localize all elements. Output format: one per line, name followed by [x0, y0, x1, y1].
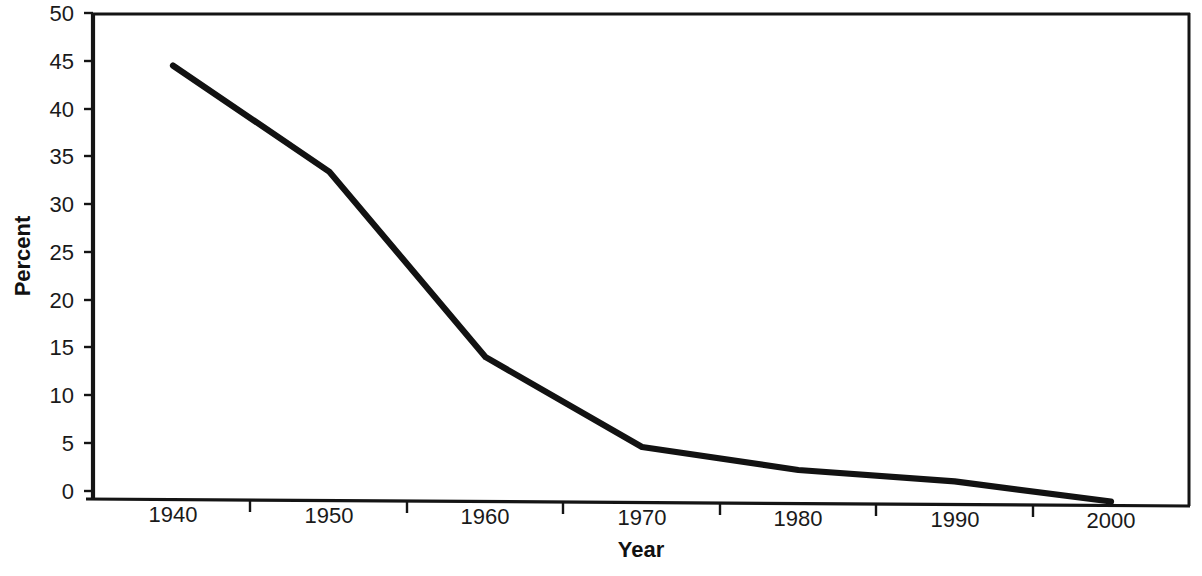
x-tick-label-1950: 1950	[305, 503, 354, 528]
x-tick-label-1960: 1960	[461, 504, 510, 529]
x-tick-label-1940: 1940	[149, 502, 198, 527]
y-tick-label-50: 50	[50, 1, 74, 26]
y-tick-label-10: 10	[50, 383, 74, 408]
x-tick-label-1990: 1990	[931, 507, 980, 532]
plot-frame	[86, 13, 1190, 506]
x-tick-label-2000: 2000	[1087, 508, 1136, 533]
y-tick-label-25: 25	[50, 240, 74, 265]
y-tick-label-45: 45	[50, 49, 74, 74]
x-tick-label-1970: 1970	[618, 505, 667, 530]
y-tick-label-35: 35	[50, 144, 74, 169]
x-axis-title: Year	[618, 537, 665, 562]
chart-canvas: 50 45 40 35 30 25 20 15 10 5 0 1940 1950…	[0, 0, 1202, 576]
y-tick-label-15: 15	[50, 335, 74, 360]
y-tick-label-0: 0	[62, 479, 74, 504]
y-axis-title: Percent	[10, 215, 35, 296]
y-axis-tick-labels: 50 45 40 35 30 25 20 15 10 5 0	[50, 1, 74, 504]
y-tick-label-20: 20	[50, 288, 74, 313]
x-tick-label-1980: 1980	[774, 506, 823, 531]
y-tick-label-40: 40	[50, 97, 74, 122]
y-tick-label-5: 5	[62, 431, 74, 456]
y-tick-label-30: 30	[50, 192, 74, 217]
data-series-line	[173, 66, 1111, 502]
line-chart-figure: 50 45 40 35 30 25 20 15 10 5 0 1940 1950…	[0, 0, 1202, 576]
x-axis-tick-labels: 1940 1950 1960 1970 1980 1990 2000	[149, 502, 1136, 533]
